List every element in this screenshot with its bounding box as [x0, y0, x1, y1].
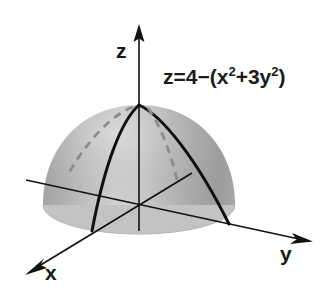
- equation-term1-exponent: 2: [228, 64, 235, 79]
- paraboloid-figure: z y x z=4−(x2+3y2): [0, 0, 332, 291]
- equation-term1-base: x: [217, 65, 229, 88]
- equation-lhs: z: [163, 65, 174, 88]
- equation-term2-exponent: 2: [271, 64, 278, 79]
- equation-close-paren: ): [279, 65, 286, 88]
- x-axis-label: x: [45, 262, 57, 283]
- equation-term2-base: y: [260, 65, 272, 88]
- y-axis-label: y: [280, 243, 292, 264]
- x-axis-arrowhead: [25, 259, 47, 276]
- equation-plus: +: [236, 65, 248, 88]
- z-axis-label: z: [116, 40, 127, 61]
- equation-constant: 4: [186, 65, 198, 88]
- equation-open-paren: (: [210, 65, 217, 88]
- equation-equals: =: [174, 65, 186, 88]
- equation-term2-coefficient: 3: [248, 65, 260, 88]
- equation-minus: −: [197, 65, 209, 88]
- equation-annotation: z=4−(x2+3y2): [163, 65, 286, 89]
